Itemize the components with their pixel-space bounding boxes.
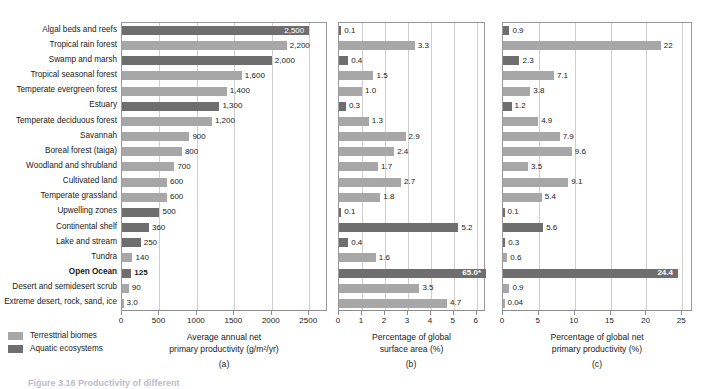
- bar: [503, 56, 519, 65]
- category-label: Temperate evergreen forest: [16, 85, 117, 94]
- bar-row: 1.2: [503, 99, 691, 114]
- bar: [503, 269, 678, 278]
- bar-row: 9.6: [503, 144, 691, 159]
- bar: [503, 223, 543, 232]
- axis-tick: [681, 311, 682, 315]
- axis-tick: [271, 311, 272, 315]
- bar-value-label: 2.9: [409, 132, 420, 141]
- bar-value-label: 0.3: [349, 101, 360, 110]
- bar-value-label: 1.8: [383, 192, 394, 201]
- bar: [122, 208, 159, 217]
- x-axis-title-c-line1: Percentage of global net: [502, 332, 692, 344]
- bar-value-label: 1.6: [379, 253, 390, 262]
- legend-swatch-aquatic-icon: [8, 345, 23, 353]
- bar-row: 0.3: [339, 99, 484, 114]
- axis-tick-label: 10: [554, 316, 594, 325]
- bar-value-label: 3.8: [533, 86, 544, 95]
- bar-row: 2,200: [122, 38, 326, 53]
- category-label: Estuary: [89, 100, 117, 109]
- bar-value-label: 500: [162, 207, 175, 216]
- axis-tick: [196, 311, 197, 315]
- bar: [339, 102, 346, 111]
- bar-value-label: 0.1: [344, 207, 355, 216]
- bar-row: 0.4: [339, 235, 484, 250]
- legend-item-terrestrial: Terresttrial biomes: [8, 331, 103, 340]
- axis-tick: [121, 311, 122, 315]
- bar-value-label: 0.4: [351, 238, 362, 247]
- axis-tick-label: 0: [101, 316, 141, 325]
- x-axis-title-a: Average annual net primary productivity …: [121, 332, 327, 355]
- bar: [122, 26, 309, 35]
- category-label: Lake and stream: [56, 237, 117, 246]
- bar: [503, 147, 572, 156]
- bar-row: 2.3: [503, 53, 691, 68]
- bar-row: 0.1: [503, 205, 691, 220]
- bar-value-label: 3.0: [127, 298, 138, 307]
- bar: [122, 147, 182, 156]
- bar: [339, 87, 362, 96]
- bar: [122, 87, 227, 96]
- legend: Terresttrial biomes Aquatic ecosystems: [8, 331, 103, 357]
- bar-value-label: 700: [177, 162, 190, 171]
- category-label: Desert and semidesert scrub: [12, 282, 117, 291]
- sub-caption-c: (c): [567, 359, 627, 369]
- bar-value-label: 1,600: [245, 71, 265, 80]
- bar: [339, 193, 380, 202]
- bar-row: 600: [122, 190, 326, 205]
- bar-value-label: 1.5: [376, 71, 387, 80]
- bar-row: 0.04: [503, 296, 691, 311]
- bar-value-label: 0.6: [510, 253, 521, 262]
- bar-row: 360: [122, 220, 326, 235]
- sub-caption-a: (a): [194, 359, 254, 369]
- bar-value-label: 9.6: [575, 147, 586, 156]
- bar-value-label: 1,200: [215, 116, 235, 125]
- bar: [339, 117, 369, 126]
- bar-row: 0.1: [339, 23, 484, 38]
- bar-row: 3.8: [503, 84, 691, 99]
- bar: [122, 299, 124, 308]
- bar-row: 700: [122, 159, 326, 174]
- category-label: Cultivated land: [63, 176, 117, 185]
- bar-value-label: 9.1: [571, 177, 582, 186]
- figure-container: Algal beds and reefsTropical rain forest…: [0, 0, 714, 389]
- legend-label-aquatic: Aquatic ecosystems: [30, 344, 103, 353]
- plot-area-a: 2,5002,2002,0001,6001,4001,3001,20090080…: [121, 22, 327, 310]
- category-label: Temperate deciduous forest: [16, 116, 117, 125]
- bar-row: 140: [122, 250, 326, 265]
- bar: [122, 71, 242, 80]
- category-label: Extreme desert, rock, sand, ice: [4, 297, 117, 306]
- bar-row: 600: [122, 175, 326, 190]
- figure-caption: Figure 3.16 Productivity of different: [28, 378, 180, 388]
- sub-caption-b: (b): [381, 359, 441, 369]
- axis-tick: [476, 311, 477, 315]
- bar-row: 1,600: [122, 68, 326, 83]
- bar: [339, 71, 373, 80]
- bar-row: 1.0: [339, 84, 484, 99]
- axis-tick: [384, 311, 385, 315]
- legend-swatch-terrestrial-icon: [8, 332, 23, 340]
- axis-tick-label: 1500: [213, 316, 253, 325]
- bar: [503, 117, 538, 126]
- bar-row: 1.3: [339, 114, 484, 129]
- category-label: Continental shelf: [56, 222, 117, 231]
- bar: [339, 253, 376, 262]
- bar-row: 2,000: [122, 53, 326, 68]
- bar: [122, 223, 149, 232]
- bar-row: 3.0: [122, 296, 326, 311]
- bar-value-label: 140: [135, 253, 148, 262]
- bar-row: 800: [122, 144, 326, 159]
- bar: [122, 56, 272, 65]
- bar-value-label: 0.3: [508, 238, 519, 247]
- bar-row: 125: [122, 266, 326, 281]
- bar-row: 5.2: [339, 220, 484, 235]
- bar-value-label: 2.4: [397, 147, 408, 156]
- bar-value-label: 0.9: [512, 26, 523, 35]
- axis-tick-label: 25: [661, 316, 701, 325]
- x-axis-title-a-line1: Average annual net: [121, 332, 327, 344]
- bar: [503, 299, 505, 308]
- category-label: Woodland and shrubland: [26, 161, 117, 170]
- bar-row: 4.7: [339, 296, 484, 311]
- bar: [122, 162, 174, 171]
- bar-row: 7.1: [503, 68, 691, 83]
- x-axis-title-c-line2: primary productivity (%): [502, 344, 692, 356]
